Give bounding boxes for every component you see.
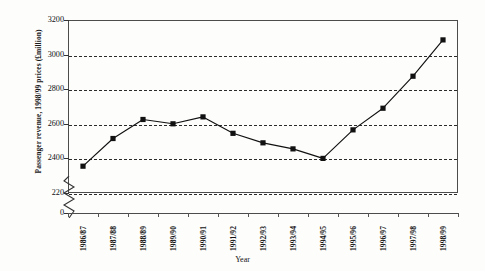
axis-break-icon [60,176,78,218]
x-axis-title: Year [0,255,485,264]
x-axis-tick-label: 1996/97 [379,217,388,261]
y-axis-tick-label: 2800 [30,85,64,93]
x-axis-tick-label: 1993/94 [289,217,298,261]
x-axis-tick-label: 1992/93 [259,217,268,261]
revenue-markers [80,37,445,168]
y-axis-tick-label: 3200 [30,16,64,24]
data-point-marker [410,74,415,79]
data-point-marker [440,37,445,42]
data-point-marker [320,156,325,161]
gridline [69,194,457,195]
data-point-marker [230,131,235,136]
x-axis-tick-label: 1997/98 [409,217,418,261]
x-axis-tick-label: 1988/89 [139,217,148,261]
y-axis-tick-label: 2400 [30,154,64,162]
data-point-marker [140,117,145,122]
data-point-marker [80,164,85,169]
data-point-marker [200,114,205,119]
x-axis-tick-label: 1987/88 [109,217,118,261]
data-point-marker [290,146,295,151]
x-axis-tick-labels: 1986/871987/881988/891989/901990/911991/… [68,216,458,260]
y-axis-tick-label: 220 [30,189,64,197]
chart-figure: Passenger revenue, 1998/99 prices (£mill… [0,0,485,271]
line-series-svg [68,20,458,193]
data-point-marker [170,121,175,126]
y-axis-tick-labels: 32003000280026002400220 [30,0,64,271]
x-axis-tick-label: 1990/91 [199,217,208,261]
data-point-marker [350,127,355,132]
x-axis-tick-label: 1994/95 [319,217,328,261]
data-series-layer [68,20,458,193]
x-axis-tickmark [458,213,459,217]
data-point-marker [380,106,385,111]
x-axis-tick-label: 1989/90 [169,217,178,261]
data-point-marker [110,136,115,141]
revenue-line [83,40,443,166]
y-axis-zero-label: 0 [30,208,64,217]
x-axis-tick-label: 1998/99 [439,217,448,261]
data-point-marker [260,140,265,145]
y-axis-tick-label: 3000 [30,50,64,58]
x-axis-tick-label: 1995/96 [349,217,358,261]
x-axis-tick-label: 1986/87 [79,217,88,261]
x-axis-tick-label: 1991/92 [229,217,238,261]
y-axis-tick-label: 2600 [30,120,64,128]
